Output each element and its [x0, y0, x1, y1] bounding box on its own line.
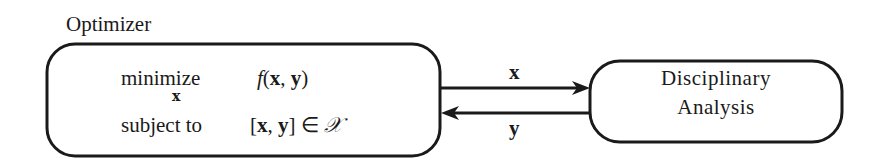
- constraint-var-y: y: [278, 113, 289, 137]
- paren-open: (: [263, 66, 270, 90]
- analysis-line-1: Disciplinary: [589, 64, 843, 93]
- constraint-keyword: subject to: [121, 113, 202, 138]
- optimizer-box: [47, 44, 440, 156]
- backward-arrow-label: y: [509, 116, 520, 141]
- feasible-set-symbol: 𝒳: [324, 113, 342, 137]
- constraint-expression: [x, y] ∈ 𝒳: [250, 113, 342, 138]
- paren-close: ): [301, 66, 308, 90]
- element-of-symbol: ∈: [296, 113, 325, 137]
- constraint-var-x: x: [257, 113, 268, 137]
- objective-function: f(x, y): [257, 66, 308, 91]
- bracket-open: [: [250, 113, 257, 137]
- comma: ,: [268, 113, 279, 137]
- analysis-line-2: Analysis: [589, 93, 843, 122]
- disciplinary-analysis-label: Disciplinary Analysis: [589, 64, 843, 122]
- bracket-close: ]: [289, 113, 296, 137]
- objective-subscript: x: [172, 88, 180, 104]
- comma: ,: [280, 66, 291, 90]
- constraint-row: subject to: [121, 113, 202, 138]
- forward-arrow-label: x: [509, 60, 520, 85]
- objective-var-y: y: [291, 66, 302, 90]
- objective-row: minimize: [121, 66, 200, 91]
- optimizer-title: Optimizer: [66, 12, 151, 37]
- objective-var-x: x: [270, 66, 281, 90]
- objective-keyword: minimize: [121, 66, 200, 91]
